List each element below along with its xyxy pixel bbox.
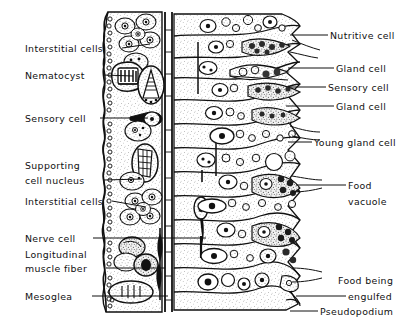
nematocyst-large xyxy=(138,66,164,104)
endoderm-layer xyxy=(174,14,300,310)
supporting-cell-nucleus-lower xyxy=(120,172,144,190)
label-supporting-cell-nucleus-line1: Supporting xyxy=(25,160,80,171)
label-gland-cell-upper: Gland cell xyxy=(336,63,386,74)
label-longitudinal-muscle-fiber-line2: muscle fiber xyxy=(25,263,87,274)
interstitial-cells-cluster-upper xyxy=(115,14,160,52)
label-pseudopodium: Pseudopodium xyxy=(320,306,393,317)
mesoglea-band xyxy=(165,12,172,312)
label-interstitial-cells-upper: Interstitial cells xyxy=(25,43,103,54)
label-nutritive-cell: Nutritive cell xyxy=(330,30,395,41)
label-longitudinal-muscle-fiber-line1: Longitudinal xyxy=(25,249,87,260)
label-gland-cell-lower: Gland cell xyxy=(336,101,386,112)
label-food-being-engulfed-line2: engulfed xyxy=(348,291,392,302)
label-food-being-engulfed-line1: Food being xyxy=(338,275,393,286)
label-supporting-cell-nucleus-line2: cell nucleus xyxy=(25,175,85,186)
label-young-gland-cell: Young gland cell xyxy=(314,137,396,148)
label-sensory-cell-endoderm: Sensory cell xyxy=(328,82,389,93)
supporting-cell-nucleus xyxy=(125,121,151,141)
label-food-vacuole-line1: Food xyxy=(348,180,372,191)
label-interstitial-cells-lower: Interstitial cells xyxy=(25,196,103,207)
label-nerve-cell: Nerve cell xyxy=(25,233,76,244)
label-sensory-cell-ectoderm: Sensory cell xyxy=(25,113,86,124)
label-nematocyst: Nematocyst xyxy=(25,70,85,81)
ectoderm-layer xyxy=(102,12,164,312)
figure-canvas: Interstitial cellsNematocystSensory cell… xyxy=(0,0,415,323)
label-food-vacuole-line2: vacuole xyxy=(348,196,387,207)
label-mesoglea: Mesoglea xyxy=(25,291,72,302)
